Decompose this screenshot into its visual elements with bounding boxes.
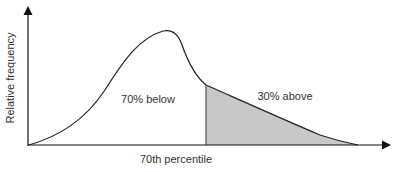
distribution-curve [29, 31, 358, 145]
x-axis-label: 70th percentile [140, 153, 212, 165]
y-axis-label: Relative frequency [4, 32, 16, 124]
above-annotation: 30% above [257, 90, 312, 102]
below-annotation: 70% below [121, 93, 175, 105]
distribution-chart: Relative frequency 70th percentile 70% b… [0, 0, 394, 172]
y-axis-arrow-icon [24, 6, 33, 15]
x-axis-arrow-icon [382, 141, 391, 150]
